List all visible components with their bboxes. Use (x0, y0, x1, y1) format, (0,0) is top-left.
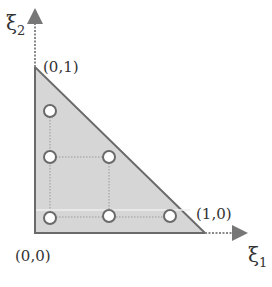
xi2-label: ξ2 (6, 11, 25, 38)
xi1-label: ξ1 (248, 243, 267, 270)
vertex-label-0-1: (0,1) (43, 58, 79, 76)
point (44, 151, 56, 163)
point (44, 105, 56, 117)
point (44, 212, 56, 224)
reference-triangle (35, 67, 205, 233)
point (164, 210, 176, 222)
point (103, 151, 115, 163)
vertex-label-0-0: (0,0) (15, 247, 51, 265)
vertex-label-1-0: (1,0) (196, 205, 232, 223)
point (103, 210, 115, 222)
triangle-element-diagram: ξ2 ξ1 (0,1) (1,0) (0,0) (0, 0, 272, 287)
